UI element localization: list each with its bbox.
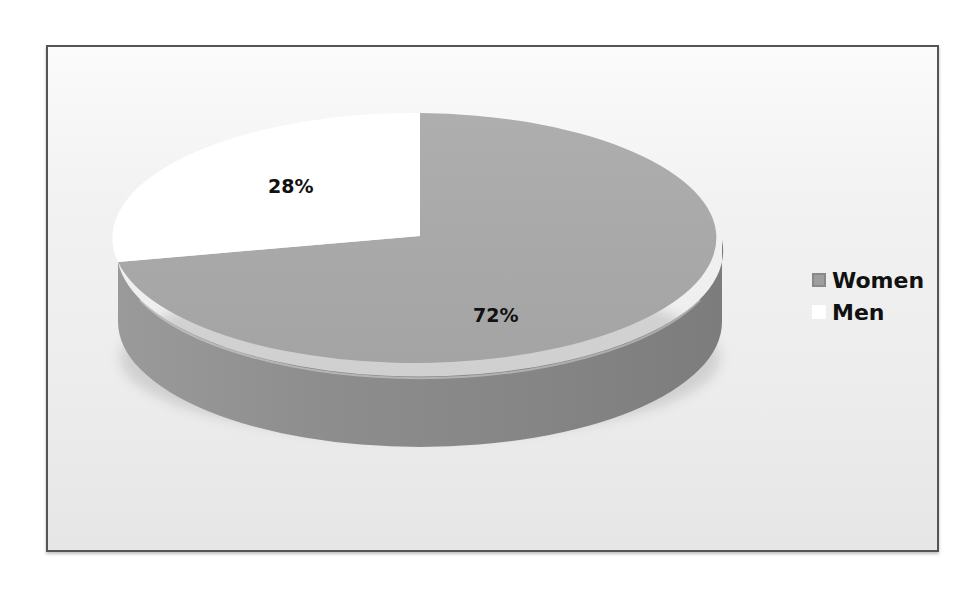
legend-label-men: Men [832, 300, 884, 325]
data-label-men: 28% [268, 175, 313, 197]
pie-slice-men[interactable] [112, 113, 420, 262]
chart-legend: Women Men [812, 264, 924, 328]
legend-label-women: Women [832, 268, 924, 293]
legend-item-women[interactable]: Women [812, 264, 924, 296]
data-label-women: 72% [473, 304, 518, 326]
legend-item-men[interactable]: Men [812, 296, 924, 328]
legend-swatch-men [812, 305, 826, 319]
legend-swatch-women [812, 273, 826, 287]
